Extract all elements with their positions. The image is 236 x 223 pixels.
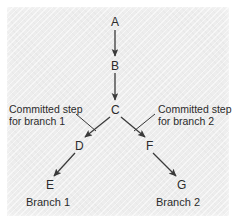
node-label-f: F — [146, 140, 153, 152]
annotation-committed-step-branch-1: Committed step for branch 1 — [9, 104, 83, 127]
branch-label-1: Branch 1 — [26, 196, 70, 208]
annotation-committed-step-branch-2: Committed step for branch 2 — [158, 104, 232, 127]
edge-c-to-f — [121, 117, 145, 137]
annotation-right-line-1: Committed step — [158, 104, 232, 116]
annotation-left-line-2: for branch 1 — [9, 116, 83, 128]
node-label-c: C — [111, 104, 120, 116]
node-label-g: G — [177, 179, 186, 191]
branch-label-2: Branch 2 — [156, 196, 200, 208]
annotation-left-line-1: Committed step — [9, 104, 83, 116]
leader-line-right-annotation — [134, 114, 155, 131]
node-label-d: D — [75, 140, 84, 152]
edge-f-to-g — [153, 153, 176, 176]
annotation-right-line-2: for branch 2 — [158, 116, 232, 128]
pathway-diagram-figure: A B C D F E G Committed step for branch … — [0, 0, 236, 223]
node-label-b: B — [111, 60, 119, 72]
edge-c-to-d — [85, 117, 110, 137]
node-label-e: E — [46, 179, 54, 191]
node-label-a: A — [111, 16, 119, 28]
edge-d-to-e — [54, 153, 75, 176]
